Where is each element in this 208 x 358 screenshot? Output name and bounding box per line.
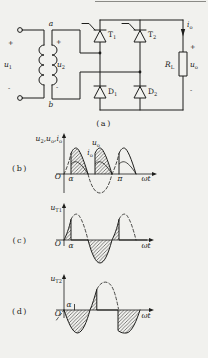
c-ylabel: uT1 bbox=[50, 203, 62, 213]
load-current-arrow bbox=[181, 29, 185, 37]
d2-label: D2 bbox=[148, 87, 157, 97]
t1-label: T1 bbox=[108, 30, 116, 40]
y-axis-arrow bbox=[62, 274, 66, 279]
input-terminal-bottom bbox=[18, 96, 23, 101]
rl-label: RL bbox=[164, 60, 175, 70]
u2-label: u2 bbox=[57, 60, 65, 70]
io-curve bbox=[119, 162, 136, 174]
d-ylabel: uT2 bbox=[50, 274, 62, 284]
origin-label: O bbox=[55, 172, 61, 181]
io-label: io bbox=[187, 20, 193, 30]
panel-c-label: (c) bbox=[12, 236, 27, 245]
alpha-label: α bbox=[66, 300, 71, 309]
thyristor-t2-symbol bbox=[122, 24, 146, 43]
thyristor-t1-symbol bbox=[82, 24, 106, 43]
d1-label: D1 bbox=[108, 87, 117, 97]
waveform-panel-d: uT2 O α ωt (d) bbox=[0, 266, 208, 358]
u2-dashed-curve bbox=[112, 153, 119, 174]
panel-b-label: (b) bbox=[12, 164, 28, 173]
diode-d2-symbol bbox=[134, 86, 146, 98]
alpha-label: α bbox=[68, 174, 73, 183]
t2-label: T2 bbox=[148, 30, 156, 40]
omega-t-label: ωt bbox=[141, 241, 151, 250]
u2-dashed-curve bbox=[71, 214, 88, 240]
diode-d1-symbol bbox=[94, 86, 106, 98]
uo-label: uo bbox=[190, 60, 198, 70]
io-curve-label: io bbox=[87, 148, 93, 158]
terminal-a-label: a bbox=[49, 19, 53, 28]
omega-t-label: ωt bbox=[141, 174, 151, 183]
load-plus-label: + bbox=[190, 43, 195, 51]
y-axis-arrow bbox=[62, 133, 66, 138]
y-axis-arrow bbox=[62, 203, 66, 208]
u2-minus-label: - bbox=[56, 83, 58, 91]
hatch-area bbox=[118, 310, 140, 333]
circuit-diagram-panel: + u1 - a + u2 - b T1 T2 D1 D2 io + RL uo… bbox=[0, 0, 208, 128]
x-axis-arrow bbox=[152, 172, 157, 176]
u2-dashed-curve bbox=[97, 282, 119, 309]
u1-label: u1 bbox=[4, 60, 12, 70]
figure-page: + u1 - a + u2 - b T1 T2 D1 D2 io + RL uo… bbox=[0, 0, 208, 358]
b-ylabel: u2,uo,io bbox=[36, 134, 62, 144]
input-terminal-top bbox=[18, 28, 23, 33]
u2-plus-label: + bbox=[56, 38, 61, 46]
waveform-panel-c: uT1 O α ωt (c) bbox=[0, 196, 208, 266]
panel-a-label: (a) bbox=[96, 119, 112, 128]
transformer-primary-coil bbox=[39, 45, 44, 85]
pi-label: π bbox=[117, 174, 124, 183]
u2-dashed-curve bbox=[119, 214, 136, 240]
u2-dashed-curve bbox=[88, 174, 112, 193]
alpha-label: α bbox=[68, 241, 73, 250]
waveform-panel-b: u2,uo,io O α π ωt uo io (b) bbox=[0, 128, 208, 196]
origin-label: O bbox=[55, 309, 61, 318]
terminal-b-label: b bbox=[49, 100, 54, 109]
input-plus-label: + bbox=[8, 39, 13, 47]
omega-t-label: ωt bbox=[141, 311, 151, 320]
resistor-symbol bbox=[179, 52, 187, 76]
load-minus-label: - bbox=[190, 86, 192, 94]
uo-curve-label: uo bbox=[92, 138, 100, 148]
input-minus-label: - bbox=[8, 84, 10, 92]
u2-dashed-curve bbox=[64, 153, 71, 174]
panel-d-label: (d) bbox=[12, 307, 28, 316]
origin-label: O bbox=[55, 239, 61, 248]
